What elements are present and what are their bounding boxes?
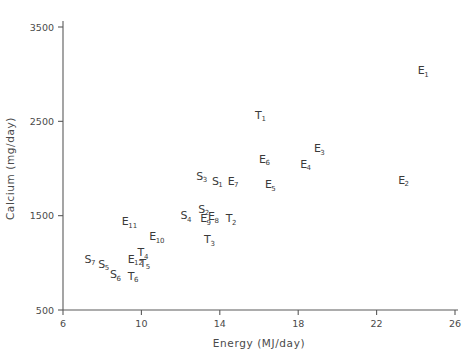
point-label-subscript: 1 [261,115,265,123]
data-point-e3[interactable]: E3 [314,142,325,157]
point-label-subscript: 10 [156,237,165,245]
x-tick-label: 18 [292,318,304,329]
point-label-subscript: 2 [405,180,409,188]
y-tick-label: 3500 [30,22,54,33]
data-point-t1[interactable]: T1 [254,109,266,124]
data-point-e1[interactable]: E1 [418,64,429,79]
data-point-s6[interactable]: S6 [110,268,121,283]
point-label-subscript: 6 [265,159,270,167]
x-tick-label: 26 [449,318,461,329]
point-label-subscript: 3 [320,149,324,157]
point-label-subscript: 9 [207,219,211,227]
data-point-t6[interactable]: T6 [127,270,139,285]
point-label-subscript: 3 [203,176,207,184]
data-point-e4[interactable]: E4 [300,158,311,173]
point-label-subscript: 5 [146,263,150,271]
data-point-s2[interactable]: S2 [198,203,209,218]
data-point-e7[interactable]: E7 [228,175,239,190]
point-label-subscript: 1 [424,71,428,79]
data-point-s7[interactable]: S7 [85,253,96,268]
x-tick-label: 22 [371,318,383,329]
data-point-s5[interactable]: S5 [98,258,109,273]
point-label-subscript: 6 [134,276,139,284]
data-point-e11[interactable]: E11 [122,215,137,230]
y-tick-label: 1500 [30,210,54,221]
point-label-subscript: 1 [218,181,222,189]
y-tick-label: 500 [36,305,54,316]
data-point-e6[interactable]: E6 [259,153,270,168]
chart-canvas: 50015002500350061014182226Energy (MJ/day… [0,0,469,357]
data-point-s4[interactable]: S4 [181,209,192,224]
data-point-e5[interactable]: E5 [265,178,276,193]
data-point-s3[interactable]: S3 [196,170,207,185]
point-label-subscript: 2 [205,209,209,217]
y-tick-label: 2500 [30,116,54,127]
data-point-t5[interactable]: T5 [138,257,150,272]
point-label-subscript: 4 [187,216,192,224]
y-axis-title: Calcium (mg/day) [4,117,16,220]
data-point-e2[interactable]: E2 [398,174,409,189]
x-tick-label: 6 [60,318,66,329]
scatter-plot-figure: 50015002500350061014182226Energy (MJ/day… [0,0,469,357]
x-axis-title: Energy (MJ/day) [213,337,305,349]
point-label-subscript: 4 [307,164,312,172]
data-point-t3[interactable]: T3 [203,233,215,248]
data-point-e10[interactable]: E10 [149,230,164,245]
x-tick-label: 10 [135,318,147,329]
point-label-subscript: 7 [91,259,95,267]
point-label-subscript: 2 [232,219,236,227]
point-label-subscript: 5 [105,264,109,272]
point-label-subscript: 7 [234,181,238,189]
point-label-subscript: 5 [271,185,275,193]
data-point-s1[interactable]: S1 [212,175,223,190]
x-tick-label: 14 [214,318,226,329]
point-label-subscript: 11 [128,222,137,230]
data-point-t2[interactable]: T2 [225,212,237,227]
point-label-subscript: 6 [116,275,121,283]
point-label-subscript: 8 [214,217,218,225]
point-label-subscript: 3 [211,240,215,248]
